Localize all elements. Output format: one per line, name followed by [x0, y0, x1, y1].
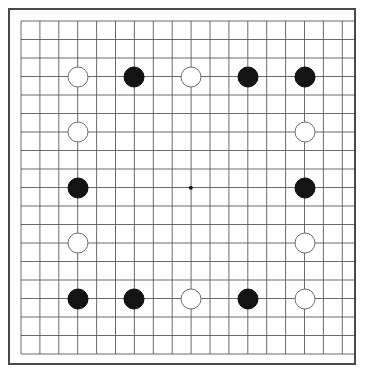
- black-stone[interactable]: [237, 288, 258, 309]
- white-stone[interactable]: [67, 66, 88, 87]
- star-point-tengen: [189, 185, 193, 189]
- black-stone[interactable]: [67, 177, 88, 198]
- white-stone[interactable]: [181, 66, 202, 87]
- white-stone[interactable]: [67, 122, 88, 143]
- stone-layer: [10, 10, 354, 363]
- black-stone[interactable]: [294, 66, 315, 87]
- white-stone[interactable]: [294, 233, 315, 254]
- white-stone[interactable]: [67, 233, 88, 254]
- black-stone[interactable]: [67, 288, 88, 309]
- black-stone[interactable]: [124, 288, 145, 309]
- black-stone[interactable]: [237, 66, 258, 87]
- white-stone[interactable]: [294, 122, 315, 143]
- go-board-screenshot: [0, 0, 365, 377]
- white-stone[interactable]: [294, 288, 315, 309]
- white-stone[interactable]: [181, 288, 202, 309]
- black-stone[interactable]: [294, 177, 315, 198]
- go-board[interactable]: [8, 8, 356, 365]
- black-stone[interactable]: [124, 66, 145, 87]
